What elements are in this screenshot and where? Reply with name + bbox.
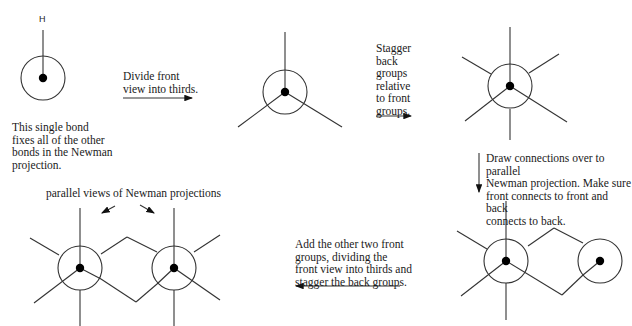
newman-step1 [21,30,65,100]
step1-caption: This single bond fixes all of the other … [12,121,113,171]
front-carbon-dot [506,82,514,90]
front-carbon-dot [76,264,84,272]
hydrogen-label: H [39,14,46,24]
step3-arrow-text: Stagger back groups relative to front gr… [376,42,411,117]
step4-arrow-text: Draw connections over to parallel Newman… [486,152,632,227]
step5-arrow-text: Add the other two front groups, dividing… [295,238,412,288]
front-carbon-dot [39,74,47,82]
parallel-views-caption: parallel views of Newman projections [46,187,221,200]
caption-arrow-left [102,206,115,213]
front-carbon-dot [281,88,289,96]
front-carbon-dot [596,257,604,265]
front-carbon-dot [502,257,510,265]
step2-arrow-text: Divide front view into thirds. [123,70,198,95]
front-carbon-dot [170,264,178,272]
caption-arrow-right [140,205,154,213]
newman-step2 [238,32,342,127]
newman-step3 [462,27,567,140]
newman-step5 [30,208,220,326]
